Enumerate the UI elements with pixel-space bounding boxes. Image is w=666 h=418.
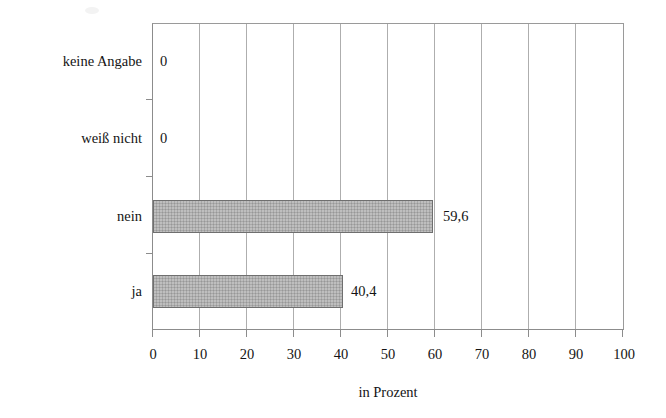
bar-chart: keine Angabe weiß nicht nein ja 0 0 59,6…	[0, 0, 666, 418]
category-label-weiss-nicht: weiß nicht	[8, 131, 142, 146]
x-tick-label-30: 30	[287, 347, 302, 362]
x-tick-label-40: 40	[334, 347, 349, 362]
gridline-50	[387, 24, 388, 329]
x-tick-label-100: 100	[613, 347, 635, 362]
gridline-60	[434, 24, 435, 329]
x-tick-label-80: 80	[522, 347, 537, 362]
gridline-70	[481, 24, 482, 329]
y-tick-2	[146, 176, 153, 177]
plot-area	[152, 23, 624, 330]
x-tick-label-0: 0	[149, 347, 156, 362]
x-tick-30	[293, 330, 294, 337]
x-tick-40	[340, 330, 341, 337]
category-label-keine-angabe: keine Angabe	[8, 54, 142, 69]
x-tick-label-20: 20	[240, 347, 255, 362]
value-label-nein: 59,6	[443, 209, 468, 224]
x-tick-20	[246, 330, 247, 337]
x-tick-50	[387, 330, 388, 337]
bar-nein	[153, 200, 433, 233]
y-tick-3	[146, 253, 153, 254]
x-tick-10	[199, 330, 200, 337]
x-tick-label-10: 10	[193, 347, 208, 362]
y-tick-1	[146, 99, 153, 100]
category-label-ja: ja	[8, 284, 142, 299]
gridline-90	[575, 24, 576, 329]
gridline-80	[528, 24, 529, 329]
x-tick-100	[622, 330, 623, 337]
x-tick-label-50: 50	[381, 347, 396, 362]
category-label-nein: nein	[8, 209, 142, 224]
x-axis-title: in Prozent	[358, 385, 417, 400]
value-label-ja: 40,4	[351, 284, 376, 299]
value-label-weiss-nicht: 0	[160, 131, 167, 146]
x-tick-90	[575, 330, 576, 337]
x-tick-70	[481, 330, 482, 337]
x-tick-label-70: 70	[475, 347, 490, 362]
x-tick-0	[152, 330, 153, 337]
x-tick-60	[434, 330, 435, 337]
x-tick-label-60: 60	[428, 347, 443, 362]
x-tick-80	[528, 330, 529, 337]
scan-artifact	[85, 7, 99, 14]
bar-ja	[153, 275, 343, 308]
x-tick-label-90: 90	[569, 347, 584, 362]
value-label-keine-angabe: 0	[160, 54, 167, 69]
